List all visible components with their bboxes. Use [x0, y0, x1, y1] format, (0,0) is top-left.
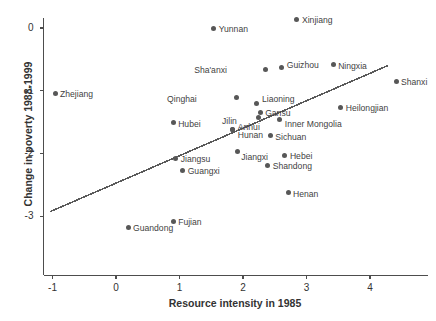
data-point-label: Ningxia: [338, 62, 367, 71]
data-point-label: Guandong: [133, 224, 173, 233]
data-point-label: Yunnan: [219, 25, 248, 34]
data-point-label: Liaoning: [262, 95, 295, 104]
data-point-label: Jiangxi: [241, 153, 268, 162]
data-point: [211, 26, 216, 31]
axes-group: [40, 18, 429, 279]
data-point-label: Hubei: [178, 120, 200, 129]
y-axis-title: Change in poverty 1988-1999: [22, 34, 34, 234]
data-point-label: Shandong: [273, 162, 312, 171]
x-tick-label: 2: [231, 282, 255, 293]
data-point-label: Inner Mongolia: [285, 120, 342, 129]
data-point: [171, 219, 176, 224]
data-point: [171, 120, 176, 125]
data-point: [338, 105, 343, 110]
data-point: [256, 115, 261, 120]
plot-area: ZhejiangGuandongFujianHubeiJiangsuGuangx…: [0, 0, 436, 321]
plot-svg: [0, 0, 436, 321]
trend-line-segment: [50, 66, 388, 212]
data-point-label: Jiangsu: [181, 155, 211, 164]
y-tick-label: 0: [14, 22, 34, 33]
x-axis-title: Resource intensity in 1985: [40, 297, 430, 309]
data-point-label: Shanxi: [401, 78, 427, 87]
data-point-label: Heilongjian: [346, 104, 389, 113]
data-point-label: Jilin: [222, 117, 237, 126]
data-point-label: Xinjiang: [302, 16, 333, 25]
data-point: [126, 225, 131, 230]
data-point: [53, 91, 58, 96]
data-point: [180, 168, 185, 173]
data-point-label: Guizhou: [287, 61, 319, 70]
data-point: [394, 79, 399, 84]
data-point-label: Henan: [293, 190, 318, 199]
x-tick-label: 4: [358, 282, 382, 293]
data-point-label: Gansu: [265, 109, 290, 118]
data-point-label: Guangxi: [188, 167, 220, 176]
trend-line: [50, 66, 388, 212]
x-tick-label: 1: [168, 282, 192, 293]
data-point-label: Sha'anxi: [194, 66, 227, 75]
data-point-label: Fujian: [178, 218, 201, 227]
data-point: [235, 149, 240, 154]
data-point-label: Qinghai: [167, 95, 197, 104]
data-point-label: Hebei: [290, 152, 312, 161]
data-point-label: Zhejiang: [60, 90, 93, 99]
data-point-label: Hunan: [238, 131, 263, 140]
x-tick-label: 3: [295, 282, 319, 293]
scatter-plot-figure: ZhejiangGuandongFujianHubeiJiangsuGuangx…: [0, 0, 436, 321]
x-tick-label: 0: [104, 282, 128, 293]
data-point-label: Sichuan: [275, 133, 306, 142]
x-tick-label: -1: [41, 282, 65, 293]
